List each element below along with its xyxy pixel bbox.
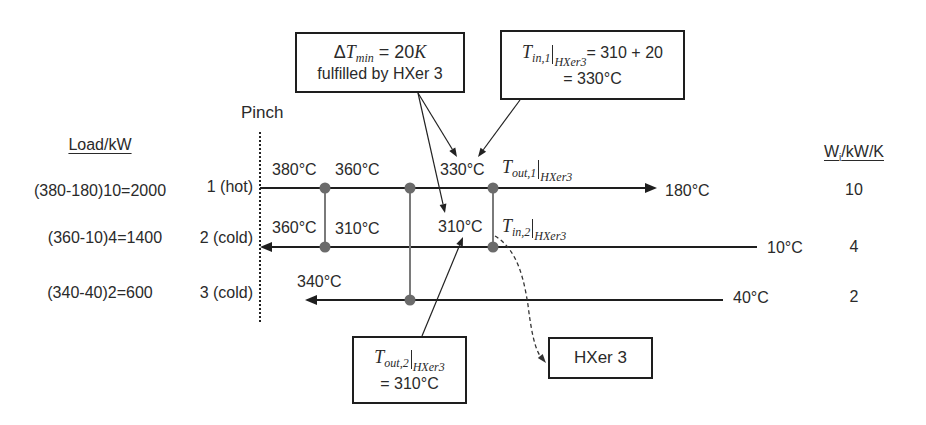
stream-2-w: 4 (814, 238, 894, 256)
stream-3-name: 3 (cold) (150, 284, 253, 302)
hxer-2-node-cold (405, 295, 416, 306)
label-t-out-1: Tout,1HXer3 (502, 158, 572, 179)
callout-dtmin-formula: ΔTmin = 20K (334, 41, 427, 63)
w-header-symbol: W (824, 143, 839, 160)
stream-3-end-temp: 40°C (733, 289, 769, 307)
stream-1-end-temp: 180°C (665, 182, 710, 200)
hxer-1-node-hot (320, 183, 331, 194)
temp-s1-hx1: 360°C (335, 161, 380, 179)
w-header-unit: /kW/K (841, 143, 884, 160)
stream-1-name: 1 (hot) (150, 178, 253, 196)
hxer-1-node-cold (320, 242, 331, 253)
callout-t-in-1: Tin,1HXer3= 310 + 20 = 330°C (500, 30, 685, 100)
hxer-3-node-cold (488, 242, 499, 253)
callout-t-in-1-formula: Tin,1HXer3= 310 + 20 (522, 41, 663, 64)
hxer3-label: HXer 3 (574, 347, 627, 369)
temp-s2-pinch: 360°C (272, 219, 317, 237)
temp-s1-hx3: 330°C (440, 161, 485, 179)
temp-s1-pinch: 380°C (272, 161, 317, 179)
hxer3-box: HXer 3 (548, 337, 653, 379)
callout-t-out-2: Tout,2HXer3 = 310°C (352, 336, 467, 404)
temp-s2-hx1: 310°C (335, 220, 380, 238)
hxer-3-node-hot (488, 183, 499, 194)
hxer-2-node-hot (405, 183, 416, 194)
w-header: Wi/kW/K (814, 143, 894, 167)
stream-3-w: 2 (814, 288, 894, 306)
temp-s3-pinch: 340°C (297, 273, 342, 291)
callout-dtmin: ΔTmin = 20K fulfilled by HXer 3 (295, 32, 465, 93)
callout-t-out-2-formula: Tout,2HXer3 (374, 346, 444, 369)
stream-1-w: 10 (814, 181, 894, 199)
temp-s2-hx3: 310°C (438, 218, 483, 236)
callout-dtmin-text: fulfilled by HXer 3 (317, 63, 442, 85)
callout-t-out-2-result: = 310°C (380, 373, 438, 395)
callout-t-in-1-result: = 330°C (563, 68, 621, 90)
stream-2-arrow (260, 242, 757, 252)
stream-3-arrow (305, 295, 723, 305)
stream-2-end-temp: 10°C (767, 239, 803, 257)
stream-2-name: 2 (cold) (150, 229, 253, 247)
label-t-in-2: Tin,2HXer3 (502, 217, 566, 238)
heat-exchanger-connectors (325, 188, 493, 300)
pinch-label: Pinch (241, 104, 284, 122)
load-header: Load/kW (10, 136, 190, 154)
